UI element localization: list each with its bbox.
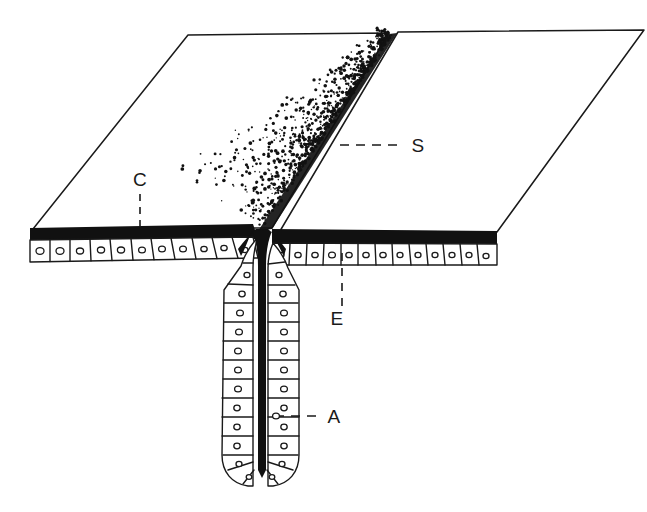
stipple-dot (278, 186, 280, 188)
stipple-dot (294, 119, 296, 121)
stipple-dot (280, 135, 281, 136)
stipple-dot (281, 156, 283, 158)
stipple-dot (351, 74, 352, 75)
stipple-dot (232, 184, 234, 186)
stipple-dot (333, 93, 335, 95)
stipple-dot (304, 121, 306, 123)
stipple-dot (315, 103, 318, 106)
stipple-dot (305, 147, 307, 149)
stipple-dot (275, 192, 277, 194)
stipple-dot (377, 41, 379, 43)
stipple-dot (253, 190, 255, 192)
stipple-dot (295, 168, 296, 169)
stipple-dot (224, 175, 226, 177)
stipple-dot (305, 125, 307, 127)
stipple-dot (288, 150, 291, 153)
stipple-dot (278, 179, 280, 181)
stipple-dot (283, 180, 285, 182)
stipple-dot (267, 202, 270, 205)
cuticle-band-right (272, 229, 497, 244)
stipple-dot (263, 213, 266, 216)
secretion-plume (180, 27, 397, 231)
stipple-dot (327, 102, 330, 105)
stipple-dot (222, 179, 226, 183)
stipple-dot (339, 91, 341, 93)
stipple-dot (269, 185, 271, 187)
stipple-dot (315, 98, 317, 100)
stipple-dot (255, 182, 257, 184)
epidermis-right (273, 243, 497, 265)
stipple-dot (263, 187, 267, 191)
stipple-dot (235, 148, 238, 151)
stipple-dot (241, 183, 244, 186)
stipple-dot (348, 63, 351, 66)
stipple-dot (312, 78, 315, 81)
stipple-dot (181, 164, 184, 167)
stipple-dot (317, 116, 320, 119)
stipple-dot (305, 148, 308, 151)
stipple-dot (219, 153, 221, 155)
stipple-dot (340, 66, 343, 69)
stipple-dot (280, 191, 282, 193)
stipple-dot (259, 219, 261, 221)
stipple-dot (361, 62, 365, 66)
stipple-dot (259, 162, 262, 165)
stipple-dot (327, 109, 331, 113)
stipple-dot (358, 44, 361, 47)
stipple-dot (262, 137, 263, 138)
nucleus-label-A-target (273, 413, 280, 419)
stipple-dot (342, 56, 344, 58)
stipple-dot (372, 41, 375, 44)
stipple-dot (267, 197, 269, 199)
stipple-dot (273, 187, 274, 188)
label-C: C (133, 169, 147, 190)
stipple-dot (319, 120, 322, 123)
stipple-dot (291, 129, 293, 131)
stipple-dot (210, 162, 212, 164)
stipple-dot (366, 40, 368, 42)
stipple-dot (295, 127, 297, 129)
stipple-dot (356, 53, 358, 55)
stipple-dot (281, 182, 282, 183)
stipple-dot (253, 206, 254, 207)
stipple-dot (345, 80, 347, 82)
stipple-dot (282, 185, 284, 187)
stipple-dot (330, 89, 333, 92)
stipple-dot (350, 68, 352, 70)
stipple-dot (356, 67, 357, 68)
stipple-dot (345, 74, 349, 78)
stipple-dot (259, 171, 261, 173)
stipple-dot (325, 80, 327, 82)
stipple-dot (345, 91, 347, 93)
stipple-dot (367, 45, 370, 48)
stipple-dot (306, 117, 308, 119)
stipple-dot (319, 134, 321, 136)
stipple-dot (204, 163, 206, 165)
stipple-dot (378, 38, 380, 40)
stipple-dot (374, 53, 376, 55)
stipple-dot (333, 77, 337, 81)
stipple-dot (274, 188, 276, 190)
stipple-dot (344, 78, 346, 80)
stipple-dot (352, 72, 354, 74)
stipple-dot (291, 98, 293, 100)
stipple-dot (251, 198, 255, 202)
stipple-dot (283, 126, 286, 129)
stipple-dot (307, 129, 309, 131)
stipple-dot (281, 138, 284, 141)
stipple-dot (286, 96, 289, 99)
stipple-dot (251, 156, 254, 159)
duct-right-cell-column (268, 243, 299, 486)
stipple-dot (293, 170, 297, 174)
stipple-dot (292, 143, 295, 146)
stipple-dot (335, 101, 337, 103)
stipple-dot (366, 65, 367, 66)
stipple-dot (303, 142, 306, 145)
stipple-dot (261, 183, 264, 186)
stipple-dot (229, 160, 231, 162)
stipple-dot (359, 55, 362, 58)
stipple-dot (307, 145, 309, 147)
stipple-dot (282, 177, 285, 180)
stipple-dot (346, 88, 348, 90)
stipple-dot (339, 70, 341, 72)
